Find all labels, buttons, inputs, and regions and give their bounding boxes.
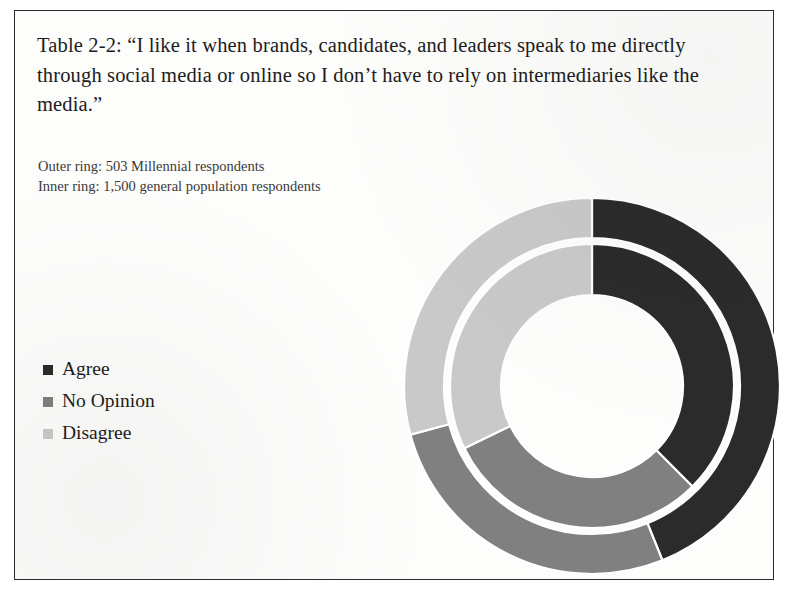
legend-swatch-disagree: [43, 429, 53, 439]
legend-label-disagree: Disagree: [62, 422, 131, 444]
outer-ring-note: Outer ring: 503 Millennial respondents: [38, 157, 558, 177]
chart-legend: Agree No Opinion Disagree: [43, 353, 253, 449]
legend-label-no-opinion: No Opinion: [62, 390, 155, 412]
figure-frame: Table 2-2: “I like it when brands, candi…: [14, 10, 774, 580]
legend-item-agree: Agree: [43, 353, 253, 385]
donut-svg: [389, 183, 794, 589]
legend-label-agree: Agree: [62, 358, 110, 380]
legend-item-no-opinion: No Opinion: [43, 385, 253, 417]
figure-title: Table 2-2: “I like it when brands, candi…: [37, 31, 737, 120]
nested-donut-chart: [389, 183, 794, 589]
legend-swatch-no-opinion: [43, 397, 53, 407]
legend-swatch-agree: [43, 365, 53, 375]
legend-item-disagree: Disagree: [43, 417, 253, 449]
